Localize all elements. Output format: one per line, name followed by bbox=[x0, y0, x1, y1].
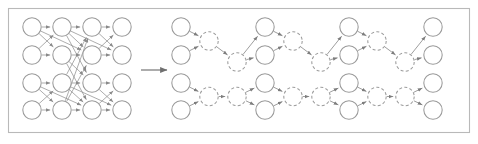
butterfly-node-c2-r2 bbox=[228, 87, 246, 105]
butterfly-node-c0-r0 bbox=[172, 18, 190, 36]
edge bbox=[274, 87, 283, 91]
butterfly-node-c5-r2 bbox=[312, 87, 330, 105]
edge bbox=[358, 102, 367, 106]
edge bbox=[246, 88, 255, 92]
butterfly-node-c9-r3 bbox=[424, 101, 442, 119]
dense-node-c3-r2 bbox=[113, 74, 131, 92]
butterfly-node-c3-r2 bbox=[256, 74, 274, 92]
dense-node-c1-r1 bbox=[53, 46, 71, 64]
butterfly-node-c6-r3 bbox=[340, 101, 358, 119]
dense-node-c2-r0 bbox=[83, 18, 101, 36]
edge bbox=[243, 36, 258, 54]
butterfly-node-c8-r1 bbox=[396, 53, 414, 71]
network-diagram-svg bbox=[0, 0, 478, 144]
edge bbox=[414, 88, 423, 92]
butterfly-node-c5-r1 bbox=[312, 53, 330, 71]
butterfly-node-c0-r2 bbox=[172, 74, 190, 92]
edge bbox=[99, 35, 113, 48]
figure-root bbox=[0, 0, 478, 144]
edge bbox=[99, 90, 113, 103]
dense-network-edges bbox=[39, 27, 113, 110]
dense-node-c3-r3 bbox=[113, 101, 131, 119]
edge bbox=[246, 101, 255, 105]
edge bbox=[274, 102, 283, 106]
dense-node-c0-r2 bbox=[23, 74, 41, 92]
edge bbox=[190, 87, 199, 91]
edge bbox=[217, 47, 228, 55]
dense-node-c2-r3 bbox=[83, 101, 101, 119]
butterfly-node-c7-r2 bbox=[368, 87, 386, 105]
butterfly-node-c0-r1 bbox=[172, 46, 190, 64]
dense-node-c1-r0 bbox=[53, 18, 71, 36]
edge bbox=[330, 101, 339, 105]
edge bbox=[327, 36, 342, 54]
edge bbox=[274, 46, 283, 50]
butterfly-node-c3-r0 bbox=[256, 18, 274, 36]
butterfly-node-c6-r1 bbox=[340, 46, 358, 64]
butterfly-node-c7-r0 bbox=[368, 32, 386, 50]
edge bbox=[415, 58, 422, 60]
butterfly-network-edges bbox=[190, 31, 426, 105]
edge bbox=[190, 46, 199, 50]
edge bbox=[190, 31, 199, 35]
edge bbox=[385, 47, 396, 55]
butterfly-node-c6-r0 bbox=[340, 18, 358, 36]
butterfly-node-c4-r2 bbox=[284, 87, 302, 105]
butterfly-node-c2-r1 bbox=[228, 53, 246, 71]
edge bbox=[69, 62, 83, 75]
dense-node-c2-r1 bbox=[83, 46, 101, 64]
dense-node-c0-r1 bbox=[23, 46, 41, 64]
edge bbox=[331, 58, 338, 60]
butterfly-node-c9-r1 bbox=[424, 46, 442, 64]
edge bbox=[358, 87, 367, 91]
butterfly-node-c1-r0 bbox=[200, 32, 218, 50]
edge bbox=[411, 36, 426, 54]
dense-node-c3-r0 bbox=[113, 18, 131, 36]
butterfly-network-nodes bbox=[172, 18, 442, 119]
dense-node-c1-r3 bbox=[53, 101, 71, 119]
dense-node-c0-r3 bbox=[23, 101, 41, 119]
butterfly-node-c1-r2 bbox=[200, 87, 218, 105]
edge bbox=[39, 91, 53, 104]
butterfly-node-c9-r0 bbox=[424, 18, 442, 36]
edge bbox=[247, 58, 254, 60]
butterfly-node-c9-r2 bbox=[424, 74, 442, 92]
edge bbox=[358, 46, 367, 50]
dense-node-c3-r1 bbox=[113, 46, 131, 64]
edge bbox=[301, 47, 312, 55]
edge bbox=[358, 31, 367, 35]
edge bbox=[39, 35, 53, 48]
butterfly-node-c3-r3 bbox=[256, 101, 274, 119]
butterfly-node-c0-r3 bbox=[172, 101, 190, 119]
butterfly-node-c4-r0 bbox=[284, 32, 302, 50]
butterfly-node-c3-r1 bbox=[256, 46, 274, 64]
butterfly-node-c6-r2 bbox=[340, 74, 358, 92]
dense-node-c1-r2 bbox=[53, 74, 71, 92]
edge bbox=[414, 101, 423, 105]
butterfly-node-c8-r2 bbox=[396, 87, 414, 105]
edge bbox=[99, 91, 113, 104]
dense-node-c0-r0 bbox=[23, 18, 41, 36]
edge bbox=[330, 88, 339, 92]
edge bbox=[190, 102, 199, 106]
dense-node-c2-r2 bbox=[83, 74, 101, 92]
edge bbox=[274, 31, 283, 35]
